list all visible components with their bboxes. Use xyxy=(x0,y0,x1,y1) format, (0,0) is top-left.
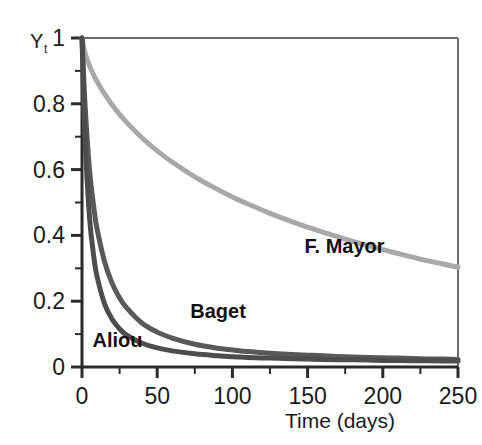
y-tick-label: 0.6 xyxy=(33,157,65,183)
x-tick-label: 150 xyxy=(288,383,326,409)
series-label-f-mayor: F. Mayor xyxy=(305,235,385,257)
y-tick-label: 1 xyxy=(52,25,65,51)
series-label-baget: Baget xyxy=(190,300,246,322)
y-tick-label: 0.8 xyxy=(33,91,65,117)
y-tick-label: 0 xyxy=(52,354,65,380)
series-label-aliou: Aliou xyxy=(93,329,143,351)
x-tick-label: 0 xyxy=(76,383,89,409)
decay-curve-chart: 050100150200250 00.20.40.60.81 F. MayorB… xyxy=(0,0,482,445)
y-tick-label: 0.2 xyxy=(33,288,65,314)
x-axis-title: Time (days) xyxy=(285,409,395,432)
x-tick-label: 50 xyxy=(144,383,170,409)
y-tick-label: 0.4 xyxy=(33,222,65,248)
x-tick-label: 250 xyxy=(439,383,477,409)
chart-figure: 050100150200250 00.20.40.60.81 F. MayorB… xyxy=(0,0,482,445)
y-axis-title: Y xyxy=(30,30,43,52)
x-tick-label: 200 xyxy=(364,383,402,409)
x-tick-label: 100 xyxy=(213,383,251,409)
chart-background xyxy=(0,0,482,445)
